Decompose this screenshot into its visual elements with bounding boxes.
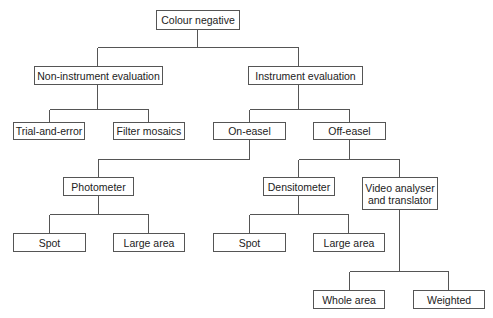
node-densitometer: Densitometer	[263, 177, 335, 196]
node-densitometer-large-area: Large area	[313, 233, 385, 252]
node-off-easel: Off-easel	[313, 122, 386, 140]
node-colour-negative: Colour negative	[156, 10, 240, 30]
node-non-instrument-evaluation: Non-instrument evaluation	[34, 66, 163, 85]
node-on-easel: On-easel	[213, 122, 286, 140]
node-trial-and-error: Trial-and-error	[13, 122, 85, 140]
node-instrument-evaluation: Instrument evaluation	[248, 66, 363, 85]
node-photometer: Photometer	[63, 177, 134, 196]
connector-lines	[0, 0, 493, 318]
node-filter-mosaics: Filter mosaics	[113, 122, 185, 140]
node-densitometer-spot: Spot	[213, 233, 286, 252]
node-photometer-spot: Spot	[13, 233, 86, 252]
node-photometer-large-area: Large area	[113, 233, 185, 252]
node-video-analyser-and-translator: Video analyser and translator	[362, 177, 438, 210]
node-whole-area: Whole area	[313, 290, 385, 309]
node-weighted: Weighted	[413, 290, 485, 309]
